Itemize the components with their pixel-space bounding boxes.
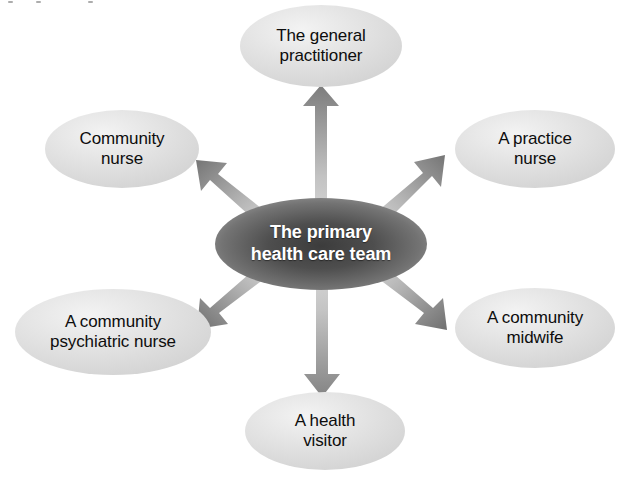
node-shape-community-midwife[interactable] — [455, 288, 615, 368]
diagram-canvas: The general practitioner Community nurse… — [0, 0, 626, 487]
node-shape-practice-nurse[interactable] — [455, 110, 615, 188]
node-shape-center-team[interactable] — [215, 198, 427, 290]
node-shape-community-nurse[interactable] — [45, 110, 199, 188]
radial-diagram-graphic — [0, 0, 626, 487]
node-shape-general-practitioner[interactable] — [240, 5, 402, 87]
node-shape-community-psychiatric-nurse[interactable] — [15, 289, 211, 375]
node-shape-health-visitor[interactable] — [245, 392, 405, 470]
